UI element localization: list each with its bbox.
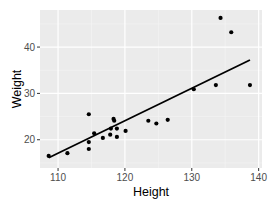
data-point: [146, 119, 150, 123]
data-point: [115, 135, 119, 139]
x-tick-label: 120: [117, 172, 134, 183]
data-point: [115, 127, 119, 131]
x-tick-label: 140: [250, 172, 267, 183]
x-axis-title: Height: [133, 185, 170, 199]
data-point: [112, 119, 116, 123]
x-tick-label: 110: [50, 172, 66, 183]
data-point: [65, 151, 69, 155]
x-tick-label: 130: [183, 172, 200, 183]
data-point: [154, 121, 158, 125]
data-point: [109, 127, 113, 131]
data-point: [92, 131, 96, 135]
data-point: [47, 154, 51, 158]
data-point: [166, 118, 170, 122]
scatter-chart: 110120130140 203040 Height Weight: [0, 0, 269, 209]
y-tick-label: 40: [24, 42, 36, 53]
data-point: [87, 147, 91, 151]
y-tick-label: 30: [24, 88, 36, 99]
data-point: [229, 30, 233, 34]
data-point: [248, 83, 252, 87]
data-point: [87, 112, 91, 116]
data-point: [192, 87, 196, 91]
data-point: [108, 133, 112, 137]
data-point: [123, 129, 127, 133]
y-axis-title: Weight: [10, 69, 24, 108]
data-point: [101, 136, 105, 140]
plot-panel: [40, 10, 262, 168]
data-point: [218, 16, 222, 20]
data-point: [87, 140, 91, 144]
data-point: [214, 83, 218, 87]
y-axis: 203040: [24, 42, 40, 146]
y-tick-label: 20: [24, 134, 36, 145]
x-axis: 110120130140: [50, 168, 267, 183]
